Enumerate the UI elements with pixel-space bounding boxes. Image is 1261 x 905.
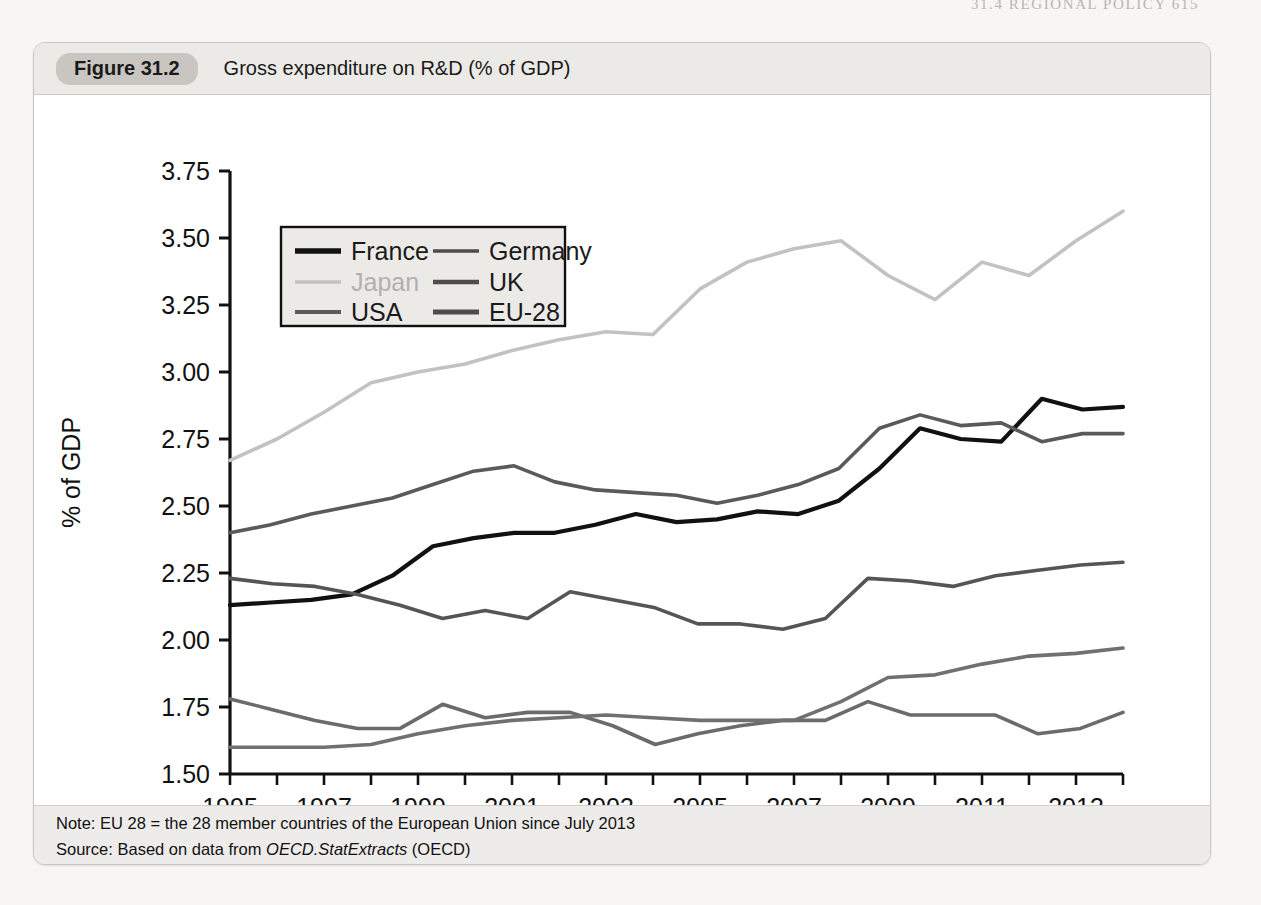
line-chart: 3.753.503.253.002.752.502.252.001.751.50… — [34, 95, 1211, 807]
y-axis-tick-label: 2.50 — [161, 492, 210, 520]
figure-title: Gross expenditure on R&D (% of GDP) — [224, 57, 571, 80]
legend-label-germany: Germany — [489, 237, 592, 265]
y-axis-title: % of GDP — [57, 417, 85, 528]
legend-label-eu-28: EU-28 — [489, 298, 560, 326]
legend-label-france: France — [351, 237, 429, 265]
chart-plot-area: 3.753.503.253.002.752.502.252.001.751.50… — [34, 95, 1210, 807]
series-line-uk — [230, 699, 1123, 745]
source-suffix: (OECD) — [407, 840, 470, 858]
legend-label-usa: USA — [351, 298, 403, 326]
y-axis-tick-label: 1.75 — [161, 693, 210, 721]
series-line-germany — [230, 415, 1123, 533]
y-axis-tick-label: 3.00 — [161, 358, 210, 386]
legend-label-uk: UK — [489, 268, 524, 296]
series-line-eu-28 — [230, 648, 1123, 747]
figure-footer: Note: EU 28 = the 28 member countries of… — [34, 805, 1210, 864]
y-axis-tick-label: 3.25 — [161, 291, 210, 319]
y-axis-tick-label: 2.75 — [161, 425, 210, 453]
figure-number-badge: Figure 31.2 — [56, 53, 198, 85]
y-axis-tick-label: 2.25 — [161, 559, 210, 587]
source-italic: OECD.StatExtracts — [266, 840, 407, 858]
legend-label-japan: Japan — [351, 268, 419, 296]
y-axis-tick-label: 3.50 — [161, 224, 210, 252]
figure-note: Note: EU 28 = the 28 member countries of… — [56, 811, 1210, 837]
source-prefix: Source: Based on data from — [56, 840, 266, 858]
figure-header: Figure 31.2 Gross expenditure on R&D (% … — [34, 43, 1210, 95]
running-head: 31.4 REGIONAL POLICY 615 — [971, 0, 1199, 13]
y-axis-tick-label: 3.75 — [161, 157, 210, 185]
figure-source: Source: Based on data from OECD.StatExtr… — [56, 837, 1210, 863]
y-axis-tick-label: 2.00 — [161, 626, 210, 654]
y-axis-tick-label: 1.50 — [161, 760, 210, 788]
figure-panel: Figure 31.2 Gross expenditure on R&D (% … — [33, 42, 1211, 865]
series-line-usa — [230, 562, 1123, 629]
